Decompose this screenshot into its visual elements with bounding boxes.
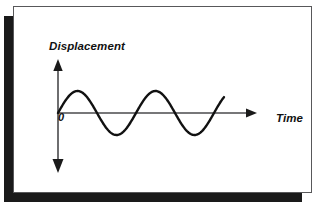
x-axis-label: Time xyxy=(276,112,303,124)
plot-area: Displacement Time 0 xyxy=(14,7,311,192)
y-axis-arrowhead-down-icon xyxy=(53,159,64,173)
y-axis-arrowhead-up-icon xyxy=(53,59,62,71)
x-axis-group xyxy=(58,109,257,118)
x-axis-arrowhead-icon xyxy=(246,109,257,118)
y-axis-label: Displacement xyxy=(49,40,125,52)
figure-root: Displacement Time 0 xyxy=(0,0,322,208)
origin-label: 0 xyxy=(58,111,64,123)
figure-frame: Displacement Time 0 xyxy=(13,6,312,193)
wave-plot-svg xyxy=(14,7,313,194)
